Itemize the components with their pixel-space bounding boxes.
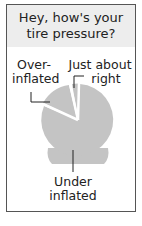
label-just-about-right: Just aboutright: [66, 58, 134, 86]
label-under-inflated: Underinflated: [42, 175, 104, 203]
label-over-inflated: Over-inflated: [12, 58, 56, 86]
